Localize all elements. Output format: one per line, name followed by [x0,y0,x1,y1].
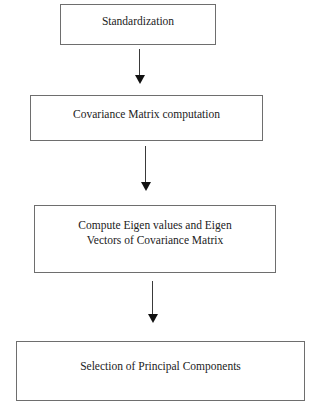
step-label-line-1: Compute Eigen values and Eigen [78,218,231,233]
arrow-shaft [152,281,153,315]
arrow-down-icon [141,146,151,191]
step-label: Covariance Matrix computation [73,107,220,122]
arrow-shaft [139,49,140,76]
arrow-down-icon [135,49,145,84]
step-label: Selection of Principal Components [80,359,241,374]
step-label-line-2: Vectors of Covariance Matrix [78,233,231,248]
arrow-head [135,75,145,84]
step-label: Standardization [102,14,174,29]
arrow-down-icon [148,281,158,323]
arrow-head [148,314,158,323]
arrow-shaft [145,146,146,183]
arrow-head [141,182,151,191]
flowchart-step-selection: Selection of Principal Components [16,341,305,401]
flowchart-step-standardization: Standardization [60,4,216,45]
flowchart-step-eigen: Compute Eigen values and Eigen Vectors o… [34,205,276,273]
flowchart-step-covariance: Covariance Matrix computation [30,95,263,141]
